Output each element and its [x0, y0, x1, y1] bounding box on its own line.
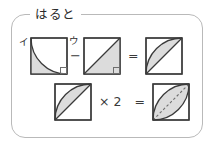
figure-crescent-segment-result [145, 37, 183, 75]
worksheet-panel: はると イ ウ − [11, 14, 203, 138]
minus-sign: − [70, 49, 81, 62]
multiply-by-two: × 2 [92, 95, 127, 109]
figure-label-u: ウ [69, 36, 79, 46]
equals-sign-top: = [121, 49, 145, 63]
equation-bottom: × 2 = [54, 83, 190, 121]
crescent-segment-icon [145, 37, 183, 75]
quarter-circle-segment-icon [30, 37, 68, 75]
equals-sign-bottom: = [127, 95, 151, 109]
figure-triangle-half-square [83, 37, 121, 75]
figure-crescent-segment [54, 83, 92, 121]
triangle-half-square-icon [83, 37, 121, 75]
vesica-leaf-icon [152, 83, 190, 121]
crescent-segment-icon [54, 83, 92, 121]
operator-minus-with-kana: ウ − [68, 37, 83, 75]
figure-quarter-circle-segment: イ [30, 37, 68, 75]
panel-title: はると [30, 6, 81, 24]
figure-vesica-leaf [152, 83, 190, 121]
figure-label-i: イ [19, 37, 29, 47]
equation-top: イ ウ − = [30, 37, 183, 75]
